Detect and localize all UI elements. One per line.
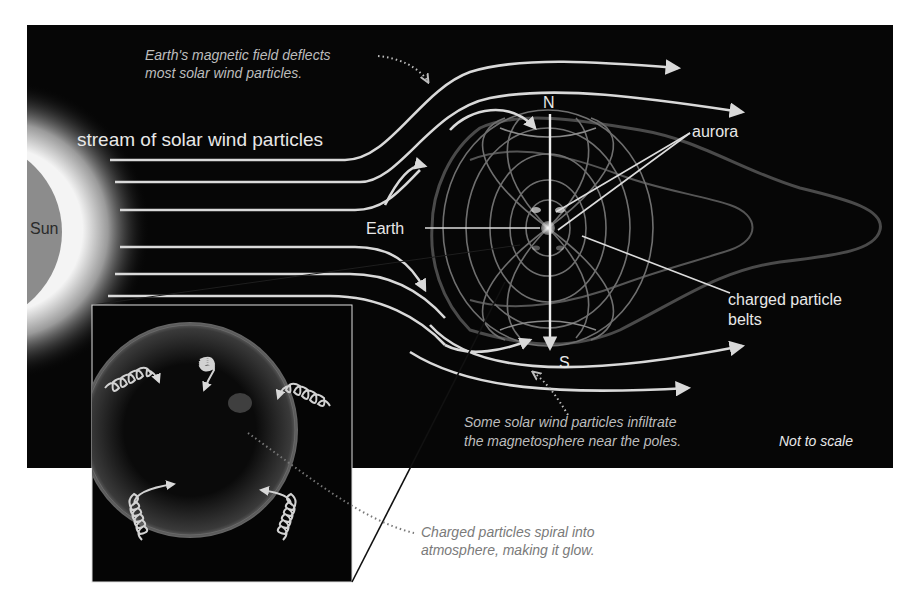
- magnetosphere-diagram: Sun stream of solar wind particles Earth…: [0, 0, 915, 595]
- infiltrate-caption-line2: the magnetosphere near the poles.: [464, 433, 681, 449]
- deflect-caption-line2: most solar wind particles.: [145, 65, 302, 81]
- sun-label: Sun: [30, 220, 58, 237]
- earth-label: Earth: [366, 220, 404, 237]
- stream-label: stream of solar wind particles: [77, 129, 323, 150]
- inset-aurora-closeup: [82, 305, 352, 582]
- north-label: N: [543, 94, 555, 111]
- aurora-label: aurora: [692, 123, 738, 140]
- spiral-caption-line2: atmosphere, making it glow.: [421, 542, 595, 558]
- belts-label-line1: charged particle: [728, 291, 842, 308]
- infiltrate-caption-line1: Some solar wind particles infiltrate: [464, 414, 677, 430]
- earth: [541, 221, 555, 235]
- scale-note: Not to scale: [779, 433, 853, 449]
- south-label: S: [559, 354, 570, 371]
- deflect-caption-line1: Earth's magnetic field deflects: [145, 47, 331, 63]
- belts-label-line2: belts: [728, 311, 762, 328]
- spiral-caption-line1: Charged particles spiral into: [421, 524, 595, 540]
